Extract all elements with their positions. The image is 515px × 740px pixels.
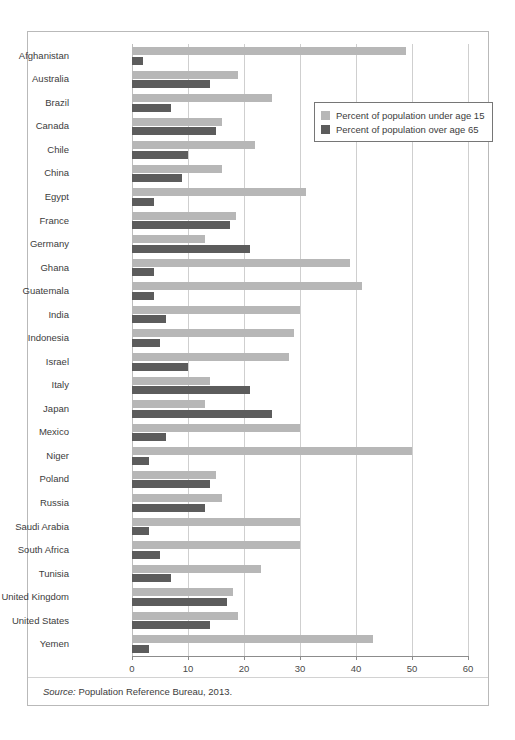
tick-label-60: 60 [463, 663, 474, 674]
bar-under15 [132, 94, 272, 102]
category-label: Brazil [45, 98, 69, 108]
bar-under15 [132, 329, 294, 337]
bar-under15 [132, 235, 205, 243]
tick-label-40: 40 [351, 663, 362, 674]
bar-over65 [132, 363, 188, 371]
tick-mark-20 [244, 656, 245, 660]
bar-under15 [132, 188, 306, 196]
bar-under15 [132, 47, 406, 55]
chart-figure: AfghanistanAustraliaBrazilCanadaChileChi… [27, 31, 489, 706]
bar-over65 [132, 57, 143, 65]
category-label: Russia [40, 498, 69, 508]
bar-over65 [132, 80, 210, 88]
bar-under15 [132, 424, 300, 432]
tick-mark-30 [300, 656, 301, 660]
category-label: Australia [32, 74, 69, 84]
source-note: Source: Population Reference Bureau, 201… [43, 686, 232, 697]
bar-over65 [132, 410, 272, 418]
category-label: Italy [52, 380, 69, 390]
legend-label-under15: Percent of population under age 15 [336, 110, 484, 121]
bar-over65 [132, 504, 205, 512]
bar-over65 [132, 127, 216, 135]
category-label: Indonesia [28, 333, 69, 343]
bar-under15 [132, 259, 350, 267]
legend-item-under15: Percent of population under age 15 [321, 108, 484, 122]
tick-label-30: 30 [295, 663, 306, 674]
bar-under15 [132, 447, 412, 455]
bar-over65 [132, 104, 171, 112]
tick-mark-40 [356, 656, 357, 660]
legend-swatch-under15-icon [321, 111, 330, 120]
category-label: China [44, 168, 69, 178]
bar-under15 [132, 212, 236, 220]
category-label: Japan [43, 404, 69, 414]
bar-over65 [132, 151, 188, 159]
bar-under15 [132, 377, 210, 385]
bar-under15 [132, 518, 300, 526]
category-label: Guatemala [23, 286, 69, 296]
gridline-30 [300, 44, 301, 656]
category-label: Chile [47, 145, 69, 155]
tick-mark-50 [412, 656, 413, 660]
category-label: France [39, 216, 69, 226]
bar-over65 [132, 386, 250, 394]
bar-over65 [132, 339, 160, 347]
bar-over65 [132, 551, 160, 559]
source-divider [28, 677, 488, 678]
category-label: Niger [46, 451, 69, 461]
tick-label-20: 20 [239, 663, 250, 674]
bar-under15 [132, 471, 216, 479]
tick-label-50: 50 [407, 663, 418, 674]
tick-mark-0 [132, 656, 133, 660]
bar-over65 [132, 457, 149, 465]
bar-under15 [132, 588, 233, 596]
legend-item-over65: Percent of population over age 65 [321, 122, 484, 136]
bar-over65 [132, 198, 154, 206]
bar-over65 [132, 527, 149, 535]
bar-over65 [132, 315, 166, 323]
category-label: Germany [30, 239, 69, 249]
bar-under15 [132, 541, 300, 549]
legend-swatch-over65-icon [321, 125, 330, 134]
bar-over65 [132, 433, 166, 441]
bar-under15 [132, 565, 261, 573]
bar-over65 [132, 174, 182, 182]
bar-under15 [132, 353, 289, 361]
bar-over65 [132, 621, 210, 629]
category-label: United States [12, 616, 69, 626]
source-label: Source: [43, 686, 76, 697]
bar-over65 [132, 645, 149, 653]
category-label: Mexico [39, 427, 69, 437]
bar-under15 [132, 494, 222, 502]
bar-over65 [132, 598, 227, 606]
tick-label-0: 0 [129, 663, 134, 674]
category-label: Canada [36, 121, 69, 131]
category-label: Israel [46, 357, 69, 367]
bar-under15 [132, 400, 205, 408]
bar-under15 [132, 282, 362, 290]
tick-mark-10 [188, 656, 189, 660]
tick-mark-60 [468, 656, 469, 660]
bar-over65 [132, 292, 154, 300]
chart-legend: Percent of population under age 15 Perce… [314, 102, 493, 142]
bar-over65 [132, 221, 230, 229]
category-label: India [48, 310, 69, 320]
bar-over65 [132, 268, 154, 276]
source-text: Population Reference Bureau, 2013. [76, 686, 232, 697]
tick-label-10: 10 [183, 663, 194, 674]
category-label: Poland [39, 474, 69, 484]
category-label: Afghanistan [19, 51, 69, 61]
bar-under15 [132, 635, 373, 643]
category-label: Egypt [45, 192, 69, 202]
category-label: South Africa [18, 545, 69, 555]
category-label: Ghana [40, 263, 69, 273]
category-label: Tunisia [39, 569, 69, 579]
bar-under15 [132, 118, 222, 126]
bar-over65 [132, 574, 171, 582]
bar-under15 [132, 71, 238, 79]
bar-under15 [132, 306, 300, 314]
bar-under15 [132, 612, 238, 620]
category-label: United Kingdom [1, 592, 69, 602]
bar-under15 [132, 141, 255, 149]
legend-label-over65: Percent of population over age 65 [336, 124, 479, 135]
